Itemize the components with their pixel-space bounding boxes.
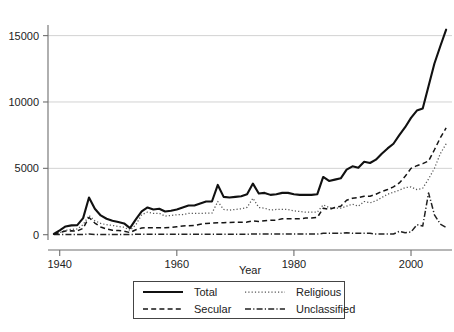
x-tick-label-1980: 1980 [282,258,306,270]
chart-canvas: 050001000015000 1940196019802000 Year To… [0,0,454,332]
legend-label-total: Total [194,286,217,298]
y-tick-labels: 050001000015000 [8,30,39,241]
y-tick-label-0: 0 [33,229,39,241]
x-tick-labels: 1940196019802000 [47,258,423,270]
legend-label-unclassified: Unclassified [296,303,355,315]
series-lines [54,30,446,235]
x-axis-title: Year [239,264,262,276]
gridlines [48,36,452,169]
legend-label-secular: Secular [194,303,232,315]
y-tick-label-10000: 10000 [8,96,39,108]
legend-label-religious: Religious [296,286,342,298]
y-tick-marks [43,36,48,235]
y-tick-label-15000: 15000 [8,30,39,42]
line-chart: 050001000015000 1940196019802000 Year To… [0,0,454,332]
x-tick-label-1960: 1960 [165,258,189,270]
legend: Total Religious Secular Unclassified [134,282,356,319]
x-tick-label-2000: 2000 [399,258,423,270]
y-tick-label-5000: 5000 [15,162,39,174]
series-line-unclassified [54,193,446,235]
series-line-total [54,30,446,234]
axes [48,25,452,250]
x-tick-marks [60,250,411,256]
series-line-secular [54,128,446,234]
x-tick-label-1940: 1940 [47,258,71,270]
